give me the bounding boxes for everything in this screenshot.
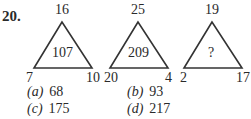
triangle-3-top: 19 (205, 3, 219, 17)
triangle-1-top: 16 (55, 3, 69, 17)
triangle-2-center: 209 (128, 46, 149, 60)
triangle-1-center: 107 (52, 46, 73, 60)
triangle-1-right: 10 (86, 71, 100, 85)
option-d-key: (d) (127, 101, 143, 116)
triangle-3-right: 17 (236, 71, 250, 85)
option-a-value: 68 (49, 84, 63, 99)
option-b-key: (b) (127, 84, 143, 99)
option-c-value: 175 (49, 101, 70, 116)
option-b-value: 93 (149, 84, 163, 99)
option-a-key: (a) (27, 84, 43, 99)
option-a[interactable]: (a)68 (27, 84, 63, 100)
option-c-key: (c) (27, 101, 43, 116)
triangle-3-center: ? (208, 46, 214, 60)
option-b[interactable]: (b)93 (127, 84, 163, 100)
triangle-1-left: 7 (26, 71, 33, 85)
option-c[interactable]: (c)175 (27, 101, 70, 117)
triangle-2-left: 20 (104, 71, 118, 85)
option-d-value: 217 (149, 101, 170, 116)
triangle-3-left: 2 (180, 71, 187, 85)
triangle-2-right: 4 (165, 71, 172, 85)
triangle-2-top: 25 (131, 3, 145, 17)
option-d[interactable]: (d)217 (127, 101, 170, 117)
